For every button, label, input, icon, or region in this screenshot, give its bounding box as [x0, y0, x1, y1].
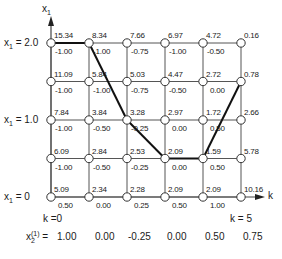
grid-node: [237, 39, 245, 47]
grid-lines: [51, 43, 241, 197]
x-axis-label-text: k: [268, 190, 273, 201]
node-control: 1.00: [210, 202, 225, 210]
grid-node: [237, 154, 245, 162]
node-cost: 2.09: [206, 186, 221, 194]
grid-node: [47, 193, 55, 201]
stage-label-first: k =0: [43, 214, 62, 224]
node-cost: 0.78: [244, 71, 259, 79]
y-axis-label: x1: [42, 4, 51, 16]
row-label-x1-1: x1 = 1.0: [4, 115, 38, 127]
node-control: -0.75: [131, 87, 148, 95]
node-control: 0.50: [172, 202, 187, 210]
grid-node: [161, 77, 169, 85]
footer-sup: (1): [31, 230, 40, 237]
grid-node: [123, 77, 131, 85]
node-control: -0.50: [207, 48, 224, 56]
grid-node: [199, 154, 207, 162]
node-cost: 2.53: [130, 148, 145, 156]
node-control: -1.00: [55, 87, 72, 95]
node-cost: 3.84: [92, 109, 107, 117]
x-axis-label: k: [268, 191, 273, 201]
node-cost: 2.28: [130, 186, 145, 194]
node-cost: 6.09: [54, 148, 69, 156]
grid-node: [47, 116, 55, 124]
grid-node: [123, 116, 131, 124]
node-cost: 0.16: [244, 32, 259, 40]
grid-node: [47, 154, 55, 162]
node-control: -0.25: [131, 125, 148, 133]
node-control: -0.50: [169, 87, 186, 95]
node-cost: 5.09: [54, 186, 69, 194]
node-cost: 7.84: [54, 109, 69, 117]
grid-node: [237, 77, 245, 85]
optimal-path: [51, 43, 241, 159]
node-control: -0.75: [131, 48, 148, 56]
node-cost: 7.66: [130, 32, 145, 40]
node-control: -1.00: [55, 48, 72, 56]
node-cost: 1.72: [206, 109, 221, 117]
row-label-value: = 0: [13, 191, 30, 202]
node-control: 0.25: [134, 202, 149, 210]
node-cost: 5.84: [92, 71, 107, 79]
footer-control-value: 0.00: [95, 232, 114, 242]
node-cost: 6.97: [168, 32, 183, 40]
grid-node: [199, 116, 207, 124]
grid-node: [123, 193, 131, 201]
stage-label-last: k = 5: [230, 214, 252, 224]
grid-node: [85, 116, 93, 124]
node-cost: 2.97: [168, 109, 183, 117]
node-cost: 5.78: [244, 148, 259, 156]
node-control: -0.50: [93, 125, 110, 133]
footer-control-value: 0.75: [243, 232, 262, 242]
x-axis-arrow-icon: [255, 194, 265, 200]
footer-control-value: 0.50: [205, 232, 224, 242]
node-control: -1.00: [55, 164, 72, 172]
footer-control-value: 1.00: [57, 232, 76, 242]
node-cost: 2.09: [168, 148, 183, 156]
footer-control-value: 0.00: [167, 232, 186, 242]
node-control: 0.50: [210, 164, 225, 172]
grid-node: [85, 154, 93, 162]
node-cost: 3.28: [130, 109, 145, 117]
grid-node: [85, 39, 93, 47]
node-cost: 2.34: [92, 186, 107, 194]
node-control: 0.00: [172, 125, 187, 133]
grid-node: [161, 154, 169, 162]
grid-node: [237, 116, 245, 124]
node-cost: 11.09: [54, 71, 72, 79]
grid-node: [161, 39, 169, 47]
node-cost: 15.34: [54, 32, 73, 40]
node-control: -1.00: [169, 48, 186, 56]
node-cost: 2.09: [168, 186, 183, 194]
grid-node: [237, 193, 245, 201]
footer-control-label: x2(1) =: [26, 230, 48, 244]
grid-node: [123, 39, 131, 47]
node-cost: 2.66: [244, 109, 259, 117]
y-axis-arrow-icon: [48, 16, 54, 26]
node-cost: 2.84: [92, 148, 107, 156]
node-cost: 2.72: [206, 71, 221, 79]
node-control: -1.00: [93, 87, 110, 95]
grid-node: [85, 193, 93, 201]
y-axis-label-sub: 1: [47, 9, 51, 16]
node-cost: 1.59: [206, 148, 221, 156]
grid-node: [199, 39, 207, 47]
node-control: 0.00: [210, 87, 225, 95]
node-control: -1.00: [55, 125, 72, 133]
node-control: 0.00: [96, 202, 111, 210]
node-cost: 4.72: [206, 32, 221, 40]
node-control: 0.00: [172, 164, 187, 172]
node-cost: 5.03: [130, 71, 145, 79]
footer-sub: 2: [31, 237, 35, 244]
grid-node: [47, 39, 55, 47]
node-control: -0.50: [93, 164, 110, 172]
grid-node: [161, 193, 169, 201]
grid-node: [199, 193, 207, 201]
node-cost: 10.16: [244, 186, 263, 194]
node-control: 0.50: [58, 202, 73, 210]
node-cost: 4.47: [168, 71, 183, 79]
footer-control-value: -0.25: [128, 232, 151, 242]
node-control: -0.25: [131, 164, 148, 172]
row-label-x1-2: x1 = 2.0: [4, 38, 38, 50]
grid-node: [85, 77, 93, 85]
